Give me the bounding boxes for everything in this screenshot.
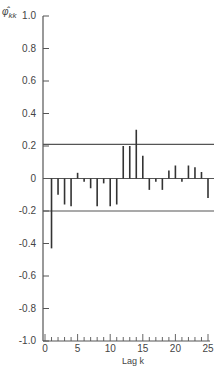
y-tick-label: -0.6 <box>8 270 36 281</box>
x-axis-title: Lag k <box>0 356 224 366</box>
y-tick-label: -1.0 <box>8 335 36 346</box>
x-tick-label: 25 <box>198 343 218 354</box>
y-tick-label: -0.2 <box>8 205 36 216</box>
y-tick-label: 0.6 <box>8 75 36 86</box>
x-tick-label: 10 <box>100 343 120 354</box>
y-tick-label: 0 <box>8 173 36 184</box>
x-tick-label: 20 <box>165 343 185 354</box>
pacf-chart <box>0 0 224 375</box>
y-tick-label: -0.4 <box>8 238 36 249</box>
pacf-bars <box>52 130 208 249</box>
y-tick-label: 0.2 <box>8 140 36 151</box>
y-tick-label: -0.8 <box>8 303 36 314</box>
y-tick-label: 0.4 <box>8 108 36 119</box>
x-tick-label: 0 <box>35 343 55 354</box>
y-axis-title: φ̂kk <box>2 6 17 20</box>
x-tick-label: 15 <box>133 343 153 354</box>
x-tick-label: 5 <box>68 343 88 354</box>
y-tick-label: 0.8 <box>8 43 36 54</box>
